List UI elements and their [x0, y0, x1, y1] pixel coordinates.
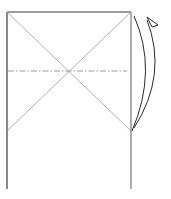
fold-diagram [0, 0, 171, 199]
paper-outline [7, 12, 131, 189]
fold-arrow-icon [132, 16, 158, 131]
